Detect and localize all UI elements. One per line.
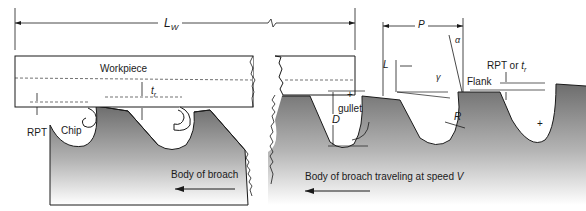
chip-left: [82, 108, 96, 127]
broach-diagram: + +: [0, 0, 586, 211]
body-of-broach-label: Body of broach: [171, 170, 238, 180]
depth-label: D: [332, 114, 340, 125]
broach-body-right-fill: [268, 84, 586, 205]
gamma-label: γ: [436, 73, 441, 82]
rpt-or-tr-label: RPT or tr: [487, 61, 526, 73]
broach-body-left-fill: [50, 106, 248, 205]
rpt-label: RPT: [27, 128, 47, 138]
chip-label: Chip: [61, 126, 82, 136]
length-label: LW: [164, 17, 178, 32]
gullet-label: gullet: [338, 104, 362, 114]
body-traveling-label: Body of broach traveling at speed V: [305, 172, 463, 182]
svg-text:+: +: [537, 118, 543, 129]
workpiece-label: Workpiece: [100, 64, 147, 74]
land-label: L: [383, 60, 389, 70]
alpha-label: α: [455, 36, 460, 45]
chip-middle: [174, 107, 190, 130]
svg-text:+: +: [347, 89, 353, 100]
pitch-label: P: [418, 20, 425, 30]
tr-label: tr: [151, 86, 156, 98]
flank-label: Flank: [467, 77, 491, 87]
radius-label: R: [454, 112, 461, 122]
